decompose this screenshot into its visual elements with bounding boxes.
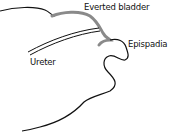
body-outline-lower bbox=[22, 39, 128, 131]
everted-bladder-shape bbox=[52, 12, 110, 45]
body-outline-top bbox=[0, 7, 55, 16]
label-ureter: Ureter bbox=[30, 57, 56, 67]
diagram-drawing bbox=[0, 0, 180, 133]
label-everted-bladder: Everted bladder bbox=[84, 2, 149, 12]
ureter-line-2 bbox=[30, 31, 100, 55]
anatomy-diagram: Everted bladder Epispadia Ureter bbox=[0, 0, 180, 133]
label-epispadia: Epispadia bbox=[128, 39, 167, 49]
